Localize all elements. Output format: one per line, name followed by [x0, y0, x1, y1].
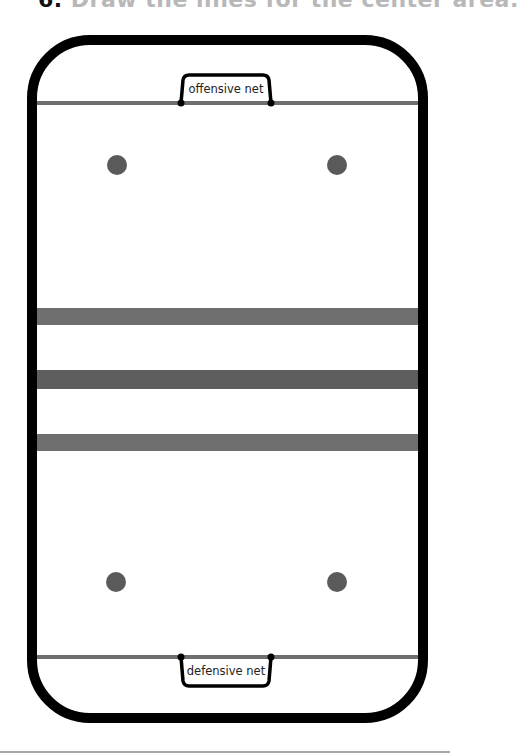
blue-line-bottom [37, 434, 418, 451]
faceoff-dot-top-right [327, 155, 347, 175]
offensive-net-label: offensive net [189, 82, 264, 96]
offensive-net-post-right [268, 100, 275, 107]
page-divider [0, 751, 450, 753]
defensive-net-post-right [268, 654, 275, 661]
defensive-net-post-left [178, 654, 185, 661]
defensive-net-label: defensive net [187, 664, 266, 678]
faceoff-dot-bottom-left [106, 572, 126, 592]
offensive-net-post-left [178, 100, 185, 107]
faceoff-dot-top-left [107, 155, 127, 175]
faceoff-dot-bottom-right [327, 572, 347, 592]
blue-line-top [37, 308, 418, 325]
center-red-line [37, 370, 418, 389]
